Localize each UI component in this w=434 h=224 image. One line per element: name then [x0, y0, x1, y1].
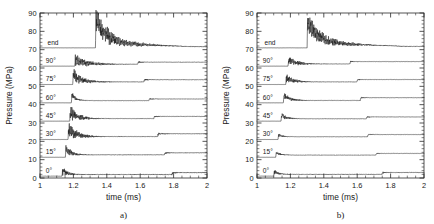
- series-label-90: 90°: [263, 57, 273, 64]
- series-label-75: 75°: [46, 75, 56, 82]
- y-axis-title: Pressure (MPa): [221, 66, 231, 125]
- series-label-75: 75°: [263, 75, 273, 82]
- y-tick-label: 30: [28, 119, 36, 128]
- panel-b: 010203040506070809011.21.41.61.82time (m…: [217, 0, 434, 224]
- trace-0: [40, 169, 207, 176]
- series-label-90: 90°: [46, 57, 56, 64]
- y-tick-label: 60: [245, 64, 253, 73]
- panel-a: 010203040506070809011.21.41.61.82time (m…: [0, 0, 217, 224]
- y-tick-label: 20: [245, 137, 253, 146]
- panel-b-content: 010203040506070809011.21.41.61.82time (m…: [221, 9, 426, 220]
- trace-60: [257, 94, 424, 103]
- y-tick-label: 50: [28, 82, 36, 91]
- series-label-45: 45°: [46, 112, 56, 119]
- trace-75: [257, 75, 424, 85]
- trace-end: [40, 10, 207, 48]
- y-tick-label: 10: [245, 155, 253, 164]
- series-label-45: 45°: [263, 112, 273, 119]
- series-label-0: 0°: [46, 167, 53, 174]
- y-tick-label: 70: [28, 45, 36, 54]
- series-label-60: 60°: [46, 94, 56, 101]
- y-tick-label: 60: [28, 64, 36, 73]
- y-tick-label: 20: [28, 137, 36, 146]
- trace-15: [257, 152, 424, 157]
- y-axis-title: Pressure (MPa): [4, 66, 14, 125]
- y-tick-label: 30: [245, 119, 253, 128]
- trace-90: [40, 55, 207, 67]
- y-tick-label: 0: [249, 174, 253, 183]
- x-tick-label: 1.2: [68, 181, 78, 190]
- x-tick-label: 1.6: [352, 181, 362, 190]
- trace-45: [257, 114, 424, 122]
- panel-caption: a): [120, 210, 127, 220]
- y-tick-label: 90: [245, 9, 253, 18]
- trace-0: [257, 170, 424, 176]
- panel-b-svg: 010203040506070809011.21.41.61.82time (m…: [217, 0, 434, 224]
- x-tick-label: 1.4: [102, 181, 112, 190]
- x-tick-label: 1.8: [385, 181, 395, 190]
- series-label-30: 30°: [263, 130, 273, 137]
- y-tick-label: 40: [28, 100, 36, 109]
- y-tick-label: 0: [32, 174, 36, 183]
- x-tick-label: 1: [255, 181, 259, 190]
- trace-60: [40, 93, 207, 102]
- x-tick-label: 1.6: [135, 181, 145, 190]
- trace-30: [257, 134, 424, 140]
- series-label-60: 60°: [263, 94, 273, 101]
- series-label-30: 30°: [46, 130, 56, 137]
- x-tick-label: 1.2: [285, 181, 295, 190]
- series-label-15: 15°: [263, 148, 273, 155]
- trace-30: [40, 123, 207, 139]
- trace-90: [257, 58, 424, 66]
- y-tick-label: 10: [28, 155, 36, 164]
- x-axis-title: time (ms): [323, 192, 358, 202]
- x-axis-title: time (ms): [106, 192, 141, 202]
- series-label-15: 15°: [46, 148, 56, 155]
- panel-caption: b): [337, 210, 345, 220]
- panel-a-svg: 010203040506070809011.21.41.61.82time (m…: [0, 0, 217, 224]
- series-label-end: end: [265, 39, 276, 46]
- trace-15: [40, 145, 207, 157]
- x-tick-label: 1.8: [168, 181, 178, 190]
- y-tick-label: 90: [28, 9, 36, 18]
- trace-75: [40, 69, 207, 84]
- trace-45: [40, 107, 207, 121]
- x-tick-label: 2: [205, 181, 209, 190]
- series-label-end: end: [48, 39, 59, 46]
- y-tick-label: 80: [245, 27, 253, 36]
- x-tick-label: 1: [38, 181, 42, 190]
- series-label-0: 0°: [263, 167, 270, 174]
- y-tick-label: 70: [245, 45, 253, 54]
- y-tick-label: 40: [245, 100, 253, 109]
- x-tick-label: 2: [422, 181, 426, 190]
- x-tick-label: 1.4: [319, 181, 329, 190]
- figure-two-panel-pressure-traces: 010203040506070809011.21.41.61.82time (m…: [0, 0, 434, 224]
- trace-end: [257, 18, 424, 48]
- y-tick-label: 80: [28, 27, 36, 36]
- panel-a-content: 010203040506070809011.21.41.61.82time (m…: [4, 9, 209, 220]
- y-tick-label: 50: [245, 82, 253, 91]
